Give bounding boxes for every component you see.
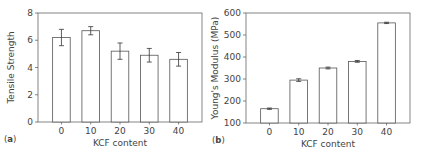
y-tick-label: 8 (27, 8, 33, 18)
x-tick-label: 10 (293, 127, 305, 137)
x-axis-label: KCF content (93, 138, 148, 148)
x-tick-label: 40 (381, 127, 393, 137)
x-tick-label: 20 (322, 127, 334, 137)
chart-panel-b: 100200300400500600010203040KCF contentYo… (210, 8, 410, 149)
y-tick-label: 500 (224, 30, 241, 40)
y-axis-label: Young's Modulus (MPa) (210, 17, 220, 121)
bar (319, 68, 337, 123)
y-tick-label: 400 (224, 52, 241, 62)
x-tick-label: 30 (352, 127, 364, 137)
x-tick-label: 30 (144, 126, 156, 136)
bar (378, 23, 396, 123)
y-tick-label: 300 (224, 74, 241, 84)
bar (261, 109, 279, 123)
y-tick-label: 600 (224, 8, 241, 18)
x-tick-label: 10 (85, 126, 97, 136)
figure-canvas: 02468010203040KCF contentTensile Strengt… (0, 0, 422, 155)
panel-label: (b) (212, 135, 225, 145)
panel-label: (a) (4, 134, 16, 144)
bar (111, 51, 129, 122)
bar (53, 38, 71, 122)
y-tick-label: 0 (27, 117, 33, 127)
bar (290, 80, 308, 123)
bar (349, 61, 367, 123)
x-tick-label: 20 (114, 126, 126, 136)
y-tick-label: 200 (224, 96, 241, 106)
x-tick-label: 40 (173, 126, 185, 136)
y-tick-label: 4 (27, 63, 33, 73)
y-axis-label: Tensile Strength (6, 31, 16, 104)
chart-panel-a: 02468010203040KCF contentTensile Strengt… (4, 8, 202, 148)
y-tick-label: 2 (27, 90, 33, 100)
x-axis-label: KCF content (301, 139, 356, 149)
bar (170, 59, 188, 122)
bar (141, 55, 159, 122)
x-tick-label: 0 (59, 126, 65, 136)
y-tick-label: 6 (27, 35, 33, 45)
bar (82, 31, 100, 122)
y-tick-label: 100 (224, 118, 241, 128)
x-tick-label: 0 (267, 127, 273, 137)
